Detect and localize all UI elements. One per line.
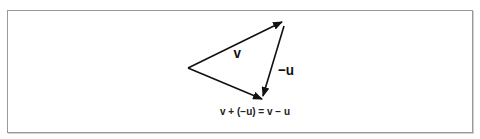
vector-neg-u-label: −u [278, 61, 294, 78]
vector-diagram [0, 0, 480, 139]
vector-v-minus-u-arrow [188, 68, 262, 99]
vector-v-label: v [233, 44, 241, 61]
equation-caption: v + (−u) = v − u [220, 106, 290, 117]
